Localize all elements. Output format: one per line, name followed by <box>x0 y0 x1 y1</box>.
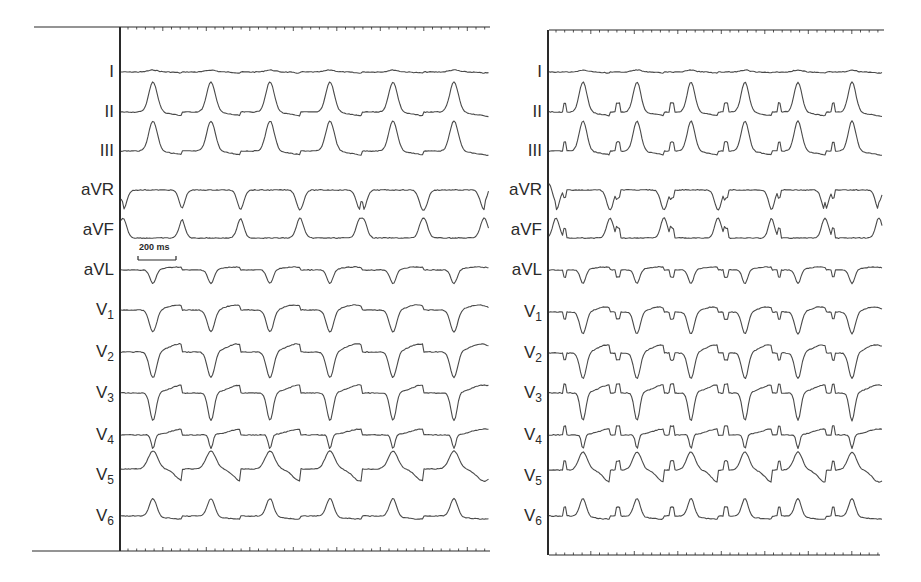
ecg-traces <box>0 0 921 582</box>
trace-v3-right <box>549 384 882 421</box>
trace-v2-right <box>549 345 882 379</box>
lead-label-ii: II <box>54 103 114 121</box>
trace-v4-right <box>549 426 882 449</box>
trace-v1-right <box>549 307 882 334</box>
trace-v6-left <box>121 498 489 519</box>
lead-label-v1: V1 <box>54 301 114 324</box>
trace-avf-right <box>549 218 882 239</box>
lead-label-v2: V2 <box>482 344 542 367</box>
lead-label-avl: aVL <box>482 261 542 279</box>
lead-label-v3: V3 <box>54 384 114 407</box>
trace-iii-right <box>549 121 882 156</box>
lead-label-avr: aVR <box>54 181 114 199</box>
lead-label-i: I <box>482 63 542 81</box>
trace-ii-left <box>121 82 489 117</box>
trace-i-left <box>121 70 489 74</box>
ecg-figure: IIIIIIaVRaVFaVLV1V2V3V4V5V6IIIIIIaVRaVFa… <box>0 0 921 582</box>
trace-v5-right <box>549 452 882 483</box>
lead-label-avr: aVR <box>482 181 542 199</box>
lead-label-v2: V2 <box>54 343 114 366</box>
lead-label-ii: II <box>482 103 542 121</box>
trace-v3-left <box>121 385 489 421</box>
trace-avl-left <box>121 267 489 284</box>
trace-v6-right <box>549 499 882 520</box>
scale-bar-label: 200 ms <box>139 242 170 252</box>
trace-iii-left <box>121 121 489 155</box>
lead-label-i: I <box>54 63 114 81</box>
lead-label-iii: III <box>482 142 542 160</box>
lead-label-iii: III <box>54 142 114 160</box>
trace-v1-left <box>121 305 489 332</box>
trace-avl-right <box>549 267 882 284</box>
trace-ii-right <box>549 82 882 117</box>
trace-avr-left <box>121 190 489 211</box>
trace-v4-left <box>121 429 489 449</box>
lead-label-v4: V4 <box>54 426 114 449</box>
trace-i-right <box>549 70 882 73</box>
lead-label-avl: aVL <box>54 261 114 279</box>
trace-avf-left <box>121 218 489 239</box>
lead-label-avf: aVF <box>482 221 542 239</box>
lead-label-avf: aVF <box>54 221 114 239</box>
lead-label-v3: V3 <box>482 384 542 407</box>
trace-v5-left <box>121 451 489 482</box>
lead-label-v6: V6 <box>54 507 114 530</box>
lead-label-v1: V1 <box>482 303 542 326</box>
trace-v2-left <box>121 344 489 378</box>
lead-label-v5: V5 <box>54 466 114 489</box>
lead-label-v4: V4 <box>482 426 542 449</box>
lead-label-v6: V6 <box>482 507 542 530</box>
lead-label-v5: V5 <box>482 467 542 490</box>
trace-avr-right <box>549 184 882 210</box>
